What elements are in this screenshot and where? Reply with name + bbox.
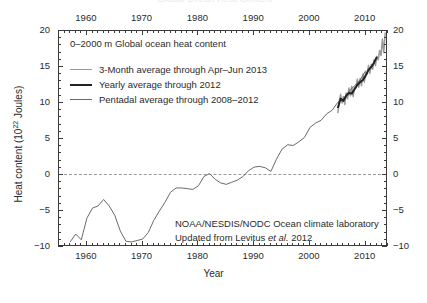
- x-tick-bottom: [248, 243, 249, 246]
- y-tick-right: [384, 109, 387, 110]
- y-tick-right: [384, 145, 387, 146]
- y-tick-label-right: 20: [393, 24, 415, 35]
- x-axis-title: Year: [0, 268, 427, 279]
- y-tick-right: [384, 59, 387, 60]
- x-tick-label-bottom: 1980: [177, 250, 217, 261]
- y-tick-right: [384, 232, 387, 233]
- x-tick-bottom: [92, 243, 93, 246]
- x-tick-top: [147, 30, 148, 33]
- x-tick-bottom: [298, 243, 299, 246]
- y-tick-right: [382, 174, 387, 175]
- x-tick-bottom: [203, 243, 204, 246]
- y-tick-left: [58, 66, 63, 67]
- y-tick-label-left: 20: [28, 24, 50, 35]
- x-tick-top: [348, 30, 349, 33]
- x-tick-bottom: [276, 243, 277, 246]
- x-tick-top: [326, 30, 327, 33]
- y-tick-right: [384, 124, 387, 125]
- y-tick-right: [384, 181, 387, 182]
- x-tick-label-top: 1990: [233, 12, 273, 23]
- x-tick-bottom: [287, 243, 288, 246]
- y-tick-left: [58, 37, 61, 38]
- legend-swatch-yearly: [70, 84, 92, 86]
- x-tick-bottom: [315, 243, 316, 246]
- x-tick-top: [64, 30, 65, 33]
- x-tick-top: [292, 30, 293, 33]
- y-tick-right: [382, 210, 387, 211]
- x-tick-bottom: [376, 243, 377, 246]
- x-tick-top: [209, 30, 210, 33]
- legend-item-pentadal: Pentadal average through 2008–2012: [70, 92, 267, 107]
- x-tick-top: [125, 30, 126, 33]
- x-tick-top: [270, 30, 271, 33]
- x-tick-top: [170, 30, 171, 33]
- y-tick-label-right: 5: [393, 132, 415, 143]
- y-tick-left: [58, 95, 61, 96]
- x-tick-bottom: [231, 243, 232, 246]
- cut-off-figure-title: Global Ocean Heat Content: [100, 0, 330, 4]
- x-tick-label-top: 1980: [177, 12, 217, 23]
- x-tick-bottom: [64, 243, 65, 246]
- x-tick-label-top: 1960: [66, 12, 106, 23]
- y-tick-left: [58, 30, 63, 31]
- y-tick-label-left: −10: [28, 240, 50, 251]
- y-tick-right: [384, 73, 387, 74]
- x-tick-label-bottom: 1990: [233, 250, 273, 261]
- y-tick-left: [58, 131, 61, 132]
- y-axis-title: Heat content (1022 Joules): [12, 44, 24, 244]
- x-tick-label-top: 2000: [289, 12, 329, 23]
- x-tick-top: [276, 30, 277, 33]
- y-tick-left: [58, 232, 61, 233]
- x-tick-bottom: [359, 243, 360, 246]
- y-tick-right: [384, 239, 387, 240]
- x-tick-bottom: [142, 241, 143, 246]
- x-tick-top: [203, 30, 204, 33]
- x-tick-top: [114, 30, 115, 33]
- x-tick-bottom: [387, 243, 388, 246]
- legend-label-yearly: Yearly average through 2012: [99, 79, 221, 90]
- x-tick-bottom: [197, 241, 198, 246]
- y-tick-left: [58, 109, 61, 110]
- x-tick-label-top: 1970: [122, 12, 162, 23]
- x-tick-top: [181, 30, 182, 33]
- y-tick-left: [58, 246, 63, 247]
- y-tick-left: [58, 102, 63, 103]
- y-tick-right: [384, 224, 387, 225]
- x-tick-bottom: [186, 243, 187, 246]
- y-tick-label-left: −5: [28, 204, 50, 215]
- y-tick-left: [58, 239, 61, 240]
- x-tick-bottom: [214, 243, 215, 246]
- y-tick-right: [384, 167, 387, 168]
- y-tick-label-left: 5: [28, 132, 50, 143]
- y-tick-left: [58, 196, 61, 197]
- y-tick-right: [382, 246, 387, 247]
- y-tick-right: [384, 44, 387, 45]
- y-tick-left: [58, 145, 61, 146]
- x-tick-top: [119, 30, 120, 33]
- y-tick-left: [58, 210, 63, 211]
- x-tick-bottom: [320, 243, 321, 246]
- y-tick-right: [384, 52, 387, 53]
- y-tick-right: [384, 88, 387, 89]
- x-tick-bottom: [125, 243, 126, 246]
- y-tick-left: [58, 152, 61, 153]
- x-tick-top: [320, 30, 321, 33]
- x-tick-top: [281, 30, 282, 33]
- x-tick-bottom: [264, 243, 265, 246]
- y-tick-right: [384, 131, 387, 132]
- x-tick-top: [175, 30, 176, 33]
- x-tick-top: [354, 30, 355, 33]
- x-tick-bottom: [164, 243, 165, 246]
- y-tick-left: [58, 88, 61, 89]
- x-tick-top: [253, 30, 254, 35]
- y-tick-right: [382, 138, 387, 139]
- y-tick-left: [58, 224, 61, 225]
- y-tick-left: [58, 116, 61, 117]
- legend-swatch-3month: [70, 69, 92, 70]
- x-tick-bottom: [136, 243, 137, 246]
- x-tick-top: [259, 30, 260, 33]
- x-tick-top: [376, 30, 377, 33]
- x-tick-top: [365, 30, 366, 35]
- y-tick-label-left: 0: [28, 168, 50, 179]
- x-tick-bottom: [192, 243, 193, 246]
